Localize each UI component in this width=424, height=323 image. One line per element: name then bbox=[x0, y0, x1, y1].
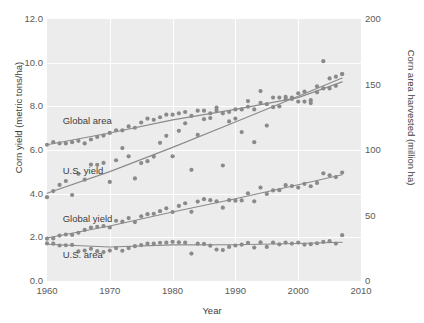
data-point bbox=[227, 198, 231, 202]
data-point bbox=[284, 183, 288, 187]
data-point bbox=[340, 72, 344, 76]
data-point bbox=[271, 188, 275, 192]
x-tick-label: 2010 bbox=[339, 285, 383, 296]
data-point bbox=[120, 220, 124, 224]
data-layer bbox=[47, 19, 361, 281]
data-point bbox=[152, 154, 156, 158]
data-point bbox=[290, 184, 294, 188]
data-point bbox=[108, 131, 112, 135]
data-point bbox=[284, 95, 288, 99]
data-point bbox=[177, 129, 181, 133]
data-point bbox=[240, 243, 244, 247]
data-point bbox=[284, 241, 288, 245]
data-point bbox=[334, 241, 338, 245]
data-point bbox=[252, 107, 256, 111]
data-point bbox=[164, 134, 168, 138]
data-point bbox=[246, 99, 250, 103]
data-point bbox=[246, 191, 250, 195]
data-point bbox=[164, 113, 168, 117]
data-point bbox=[177, 240, 181, 244]
data-point bbox=[196, 242, 200, 246]
data-point bbox=[277, 104, 281, 108]
data-point bbox=[89, 137, 93, 141]
data-point bbox=[189, 114, 193, 118]
data-point bbox=[302, 99, 306, 103]
data-point bbox=[171, 240, 175, 244]
data-point bbox=[83, 228, 87, 232]
data-point bbox=[340, 170, 344, 174]
data-point bbox=[51, 189, 55, 193]
series-annotation-label: Global area bbox=[63, 115, 112, 126]
data-point bbox=[57, 243, 61, 247]
y-tick-label-right: 200 bbox=[365, 13, 407, 24]
data-point bbox=[302, 182, 306, 186]
data-point bbox=[258, 185, 262, 189]
data-point bbox=[321, 240, 325, 244]
data-point bbox=[83, 141, 87, 145]
data-point bbox=[145, 116, 149, 120]
data-point bbox=[271, 96, 275, 100]
data-point bbox=[246, 105, 250, 109]
data-point bbox=[233, 116, 237, 120]
data-point bbox=[334, 84, 338, 88]
data-point bbox=[45, 143, 49, 147]
y-axis-right-title: Corn area harvested (million ha) bbox=[406, 48, 417, 188]
series-points bbox=[45, 72, 344, 147]
data-point bbox=[202, 197, 206, 201]
data-point bbox=[233, 199, 237, 203]
data-point bbox=[233, 107, 237, 111]
x-tick-label: 2000 bbox=[276, 285, 320, 296]
data-point bbox=[89, 225, 93, 229]
data-point bbox=[315, 181, 319, 185]
data-point bbox=[328, 76, 332, 80]
data-point bbox=[127, 216, 131, 220]
data-point bbox=[271, 105, 275, 109]
data-point bbox=[183, 121, 187, 125]
data-point bbox=[114, 128, 118, 132]
data-point bbox=[271, 240, 275, 244]
data-point bbox=[277, 242, 281, 246]
series-annotation-label: Global yield bbox=[63, 213, 113, 224]
data-point bbox=[183, 110, 187, 114]
data-point bbox=[171, 113, 175, 117]
data-point bbox=[108, 180, 112, 184]
data-point bbox=[208, 116, 212, 120]
data-point bbox=[164, 206, 168, 210]
y-tick-label-right: 150 bbox=[365, 79, 407, 90]
data-point bbox=[252, 245, 256, 249]
corn-yield-area-chart: Global areaU.S. yieldGlobal yieldU.S. ar… bbox=[0, 0, 424, 323]
data-point bbox=[57, 183, 61, 187]
data-point bbox=[315, 241, 319, 245]
data-point bbox=[145, 159, 149, 163]
data-point bbox=[196, 199, 200, 203]
x-tick-label: 1980 bbox=[151, 285, 195, 296]
data-point bbox=[57, 233, 61, 237]
data-point bbox=[51, 140, 55, 144]
data-point bbox=[196, 133, 200, 137]
data-point bbox=[171, 210, 175, 214]
data-point bbox=[240, 107, 244, 111]
data-point bbox=[139, 120, 143, 124]
y-tick-label-right: 100 bbox=[365, 144, 407, 155]
data-point bbox=[189, 210, 193, 214]
data-point bbox=[214, 247, 218, 251]
data-point bbox=[108, 249, 112, 253]
data-point bbox=[127, 246, 131, 250]
y-tick-label-left: 2.0 bbox=[3, 231, 43, 242]
data-point bbox=[265, 245, 269, 249]
data-point bbox=[145, 212, 149, 216]
data-point bbox=[120, 249, 124, 253]
data-point bbox=[196, 109, 200, 113]
data-point bbox=[258, 89, 262, 93]
data-point bbox=[208, 111, 212, 115]
series-annotation-label: U.S. yield bbox=[63, 165, 104, 176]
data-point bbox=[114, 246, 118, 250]
data-point bbox=[51, 236, 55, 240]
data-point bbox=[152, 241, 156, 245]
data-point bbox=[221, 163, 225, 167]
y-tick-label-right: 50 bbox=[365, 210, 407, 221]
data-point bbox=[158, 115, 162, 119]
data-point bbox=[227, 119, 231, 123]
data-point bbox=[277, 188, 281, 192]
data-point bbox=[120, 128, 124, 132]
